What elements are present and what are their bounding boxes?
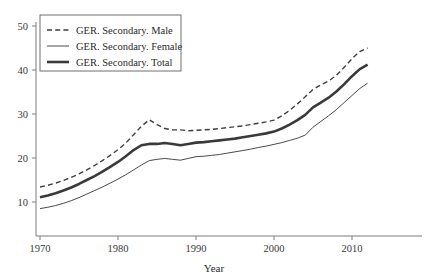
series-line-ger-secondary-total xyxy=(40,65,368,197)
y-tick-label-40: 40 xyxy=(18,65,29,76)
x-tick-label-2010: 2010 xyxy=(342,243,363,254)
line-chart: 1020304050 19701980199020002010 Year GER… xyxy=(0,0,428,279)
x-tick-label-1970: 1970 xyxy=(30,243,51,254)
x-axis: 19701980199020002010 xyxy=(30,236,423,254)
legend-label-1: GER. Secondary. Female xyxy=(76,41,182,52)
y-tick-label-50: 50 xyxy=(18,21,29,32)
y-tick-label-30: 30 xyxy=(18,109,29,120)
x-tick-label-2000: 2000 xyxy=(264,243,285,254)
x-tick-label-1980: 1980 xyxy=(108,243,129,254)
legend-label-0: GER. Secondary. Male xyxy=(76,25,173,36)
y-axis: 1020304050 xyxy=(18,21,37,237)
y-tick-label-20: 20 xyxy=(18,153,29,164)
chart-legend: GER. Secondary. MaleGER. Secondary. Fema… xyxy=(40,15,182,71)
y-tick-label-10: 10 xyxy=(18,197,29,208)
x-tick-label-1990: 1990 xyxy=(186,243,207,254)
data-series-group xyxy=(40,48,368,209)
chart-container: 1020304050 19701980199020002010 Year GER… xyxy=(0,0,428,279)
y-axis-ticks xyxy=(32,26,36,202)
series-line-ger-secondary-female xyxy=(40,83,368,208)
y-axis-tick-labels: 1020304050 xyxy=(18,21,29,208)
legend-label-2: GER. Secondary. Total xyxy=(76,57,172,68)
x-axis-ticks xyxy=(40,236,352,240)
x-axis-title: Year xyxy=(204,262,225,274)
x-axis-tick-labels: 19701980199020002010 xyxy=(30,243,363,254)
